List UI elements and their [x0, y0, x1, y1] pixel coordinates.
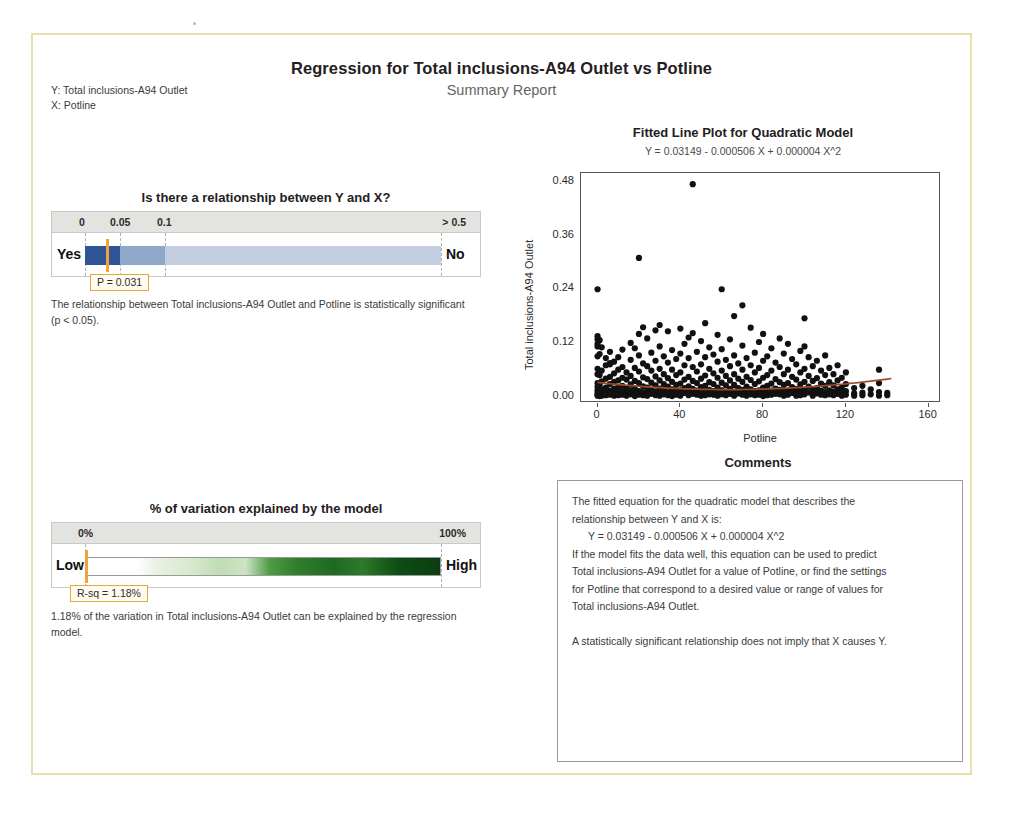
comments-line-4: If the model fits the data well, this eq…	[572, 546, 948, 564]
response-variable-label: Y: Total inclusions-A94 Outlet	[51, 84, 187, 96]
rsq-marker	[85, 550, 88, 583]
pvalue-gauge-scale: 0 0.05 0.1 > 0.5	[52, 212, 480, 233]
pvalue-tick-0: 0	[79, 216, 85, 228]
pvalue-bar-marginal	[120, 246, 165, 265]
rsq-tick-0: 0%	[78, 527, 93, 539]
pvalue-bar-significant	[85, 246, 120, 265]
comments-spacer	[572, 616, 948, 633]
plot-x-tickmark	[845, 403, 846, 407]
page-speck	[193, 22, 196, 25]
plot-y-tick-label: 0.36	[538, 228, 574, 240]
pvalue-panel-heading: Is there a relationship between Y and X?	[51, 190, 481, 205]
plot-x-tick-label: 40	[659, 408, 699, 420]
plot-x-tickmark	[762, 403, 763, 407]
pvalue-callout: P = 0.031	[90, 274, 149, 291]
plot-title: Fitted Line Plot for Quadratic Model	[523, 125, 963, 140]
pvalue-note: The relationship between Total inclusion…	[51, 297, 466, 328]
page-title: Regression for Total inclusions-A94 Outl…	[33, 59, 970, 78]
plot-equation: Y = 0.03149 - 0.000506 X + 0.000004 X^2	[523, 145, 963, 157]
comments-heading: Comments	[553, 455, 963, 470]
plot-x-tick-label: 0	[577, 408, 617, 420]
rsq-callout: R-sq = 1.18%	[70, 585, 148, 602]
comments-line-5: Total inclusions-A94 Outlet for a value …	[572, 563, 948, 581]
comments-box: The fitted equation for the quadratic mo…	[557, 480, 963, 762]
pvalue-gauge-body: Yes No	[52, 233, 480, 276]
pvalue-bar-not-significant	[165, 246, 441, 265]
scatter-plot-canvas	[581, 173, 939, 401]
pvalue-tick-05: > 0.5	[442, 216, 466, 228]
pvalue-gauge: 0 0.05 0.1 > 0.5 Yes No P = 0.031	[51, 211, 481, 277]
rsq-note: 1.18% of the variation in Total inclusio…	[51, 609, 466, 640]
rsq-tick-100: 100%	[439, 527, 466, 539]
plot-x-tick-label: 120	[825, 408, 865, 420]
predictor-variable-label: X: Potline	[51, 99, 96, 111]
report-frame: Regression for Total inclusions-A94 Outl…	[31, 33, 972, 775]
pvalue-tick-005: 0.05	[110, 216, 130, 228]
comments-line-2: relationship between Y and X is:	[572, 511, 948, 529]
rsq-left-label: Low	[56, 557, 84, 573]
plot-x-tick-label: 160	[908, 408, 948, 420]
pvalue-left-label: Yes	[57, 246, 81, 262]
rsq-gauge-scale: 0% 100%	[52, 523, 480, 544]
rsq-gradient-bar	[85, 557, 441, 576]
rsq-panel-heading: % of variation explained by the model	[51, 501, 481, 516]
comments-line-3: Y = 0.03149 - 0.000506 X + 0.000004 X^2	[572, 528, 948, 546]
scatter-plot-frame	[580, 172, 940, 402]
plot-x-tickmark	[597, 403, 598, 407]
plot-x-tickmark	[928, 403, 929, 407]
comments-line-6: for Potline that correspond to a desired…	[572, 581, 948, 599]
pvalue-gridline-05	[441, 233, 442, 276]
rsq-gauge: 0% 100% Low High R-sq = 1.18%	[51, 522, 481, 588]
comments-line-8: A statistically significant relationship…	[572, 633, 948, 651]
rsq-gauge-body: Low High	[52, 544, 480, 587]
rsq-right-label: High	[446, 557, 477, 573]
plot-y-tick-label: 0.24	[538, 281, 574, 293]
plot-y-tick-label: 0.12	[538, 335, 574, 347]
plot-y-tick-label: 0.00	[538, 389, 574, 401]
pvalue-right-label: No	[446, 246, 465, 262]
plot-x-tick-label: 80	[742, 408, 782, 420]
plot-y-axis-label: Total inclusions-A94 Outlet	[523, 240, 535, 370]
plot-x-axis-label: Potline	[580, 432, 940, 444]
pvalue-marker	[106, 239, 109, 272]
comments-line-1: The fitted equation for the quadratic mo…	[572, 493, 948, 511]
comments-line-7: Total inclusions-A94 Outlet.	[572, 598, 948, 616]
plot-x-tickmark	[679, 403, 680, 407]
plot-y-tick-label: 0.48	[538, 174, 574, 186]
pvalue-tick-01: 0.1	[157, 216, 172, 228]
rsq-gridline-100	[441, 544, 442, 587]
